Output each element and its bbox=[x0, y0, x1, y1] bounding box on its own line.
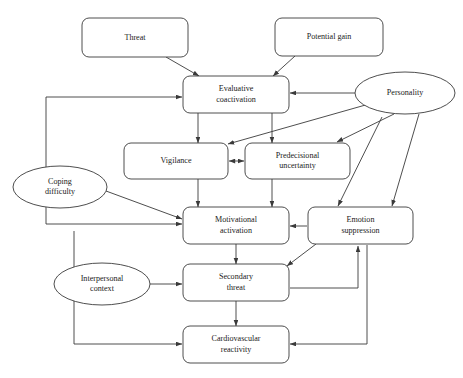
edge-threat-to-evaluative bbox=[166, 57, 199, 76]
node-personality: Personality bbox=[355, 72, 455, 114]
node-predecisional_uncertainty: Predecisionaluncertainty bbox=[245, 143, 350, 179]
node-label-potential_gain: Potential gain bbox=[307, 32, 352, 41]
node-label-personality: Personality bbox=[387, 88, 424, 97]
node-emotion_suppression: Emotionsuppression bbox=[308, 207, 413, 244]
diagram-canvas: ThreatPotential gainEvaluativecoactivati… bbox=[0, 0, 463, 378]
node-vigilance: Vigilance bbox=[124, 143, 228, 179]
nodes-layer: ThreatPotential gainEvaluativecoactivati… bbox=[13, 18, 455, 363]
node-label-vigilance: Vigilance bbox=[161, 156, 192, 165]
edge-potential-gain-to-evaluative bbox=[273, 56, 295, 76]
edge-emotion-suppression-to-secondary-threat bbox=[287, 244, 316, 266]
node-motivational_activation: Motivationalactivation bbox=[183, 207, 289, 244]
node-label-emotion_suppression: Emotionsuppression bbox=[341, 215, 379, 234]
node-cardiovascular_reactivity: Cardiovascularreactivity bbox=[183, 326, 289, 363]
edge-emotion-suppression-to-cardiovascular bbox=[290, 245, 367, 344]
node-label-motivational_activation: Motivationalactivation bbox=[215, 215, 258, 234]
edge-personality-to-predecisional bbox=[337, 114, 394, 142]
node-label-coping_difficulty: Copingdifficulty bbox=[45, 177, 76, 196]
node-coping_difficulty: Copingdifficulty bbox=[13, 166, 107, 208]
node-label-predecisional_uncertainty: Predecisionaluncertainty bbox=[276, 151, 320, 170]
node-potential_gain: Potential gain bbox=[275, 18, 383, 56]
node-secondary_threat: Secondarythreat bbox=[183, 264, 289, 301]
node-interpersonal_context: Interpersonalcontext bbox=[54, 263, 150, 305]
node-evaluative_coactivation: Evaluativecoactivation bbox=[183, 76, 289, 113]
edge-secondary-threat-to-emotion-suppression bbox=[290, 246, 358, 288]
node-label-evaluative_coactivation: Evaluativecoactivation bbox=[216, 84, 256, 103]
flowchart-diagram: ThreatPotential gainEvaluativecoactivati… bbox=[0, 0, 463, 378]
edge-coping-difficulty-to-motivational bbox=[106, 191, 182, 219]
node-threat: Threat bbox=[82, 18, 188, 57]
node-label-threat: Threat bbox=[124, 32, 146, 41]
edge-personality-to-emotion-suppression bbox=[392, 114, 419, 206]
